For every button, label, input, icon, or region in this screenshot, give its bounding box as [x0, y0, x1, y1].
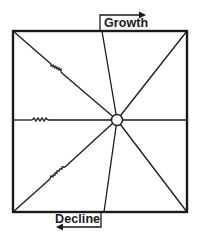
zigzag-icon [32, 118, 48, 121]
zigzag-icon [50, 167, 65, 179]
spoke-bottom-left [13, 123, 113, 212]
spoke-top-left [13, 31, 117, 120]
center-hub [112, 115, 123, 126]
outer-box [13, 31, 187, 212]
spoke-bottom [104, 120, 117, 212]
zigzag-icon [51, 64, 63, 74]
diagram-canvas [0, 0, 202, 241]
spoke-left [13, 118, 112, 121]
growth-label: Growth [104, 17, 148, 30]
spoke-top [102, 31, 117, 120]
spoke-bottom-right [117, 120, 187, 212]
decline-label: Decline [55, 213, 100, 226]
spoke-top-right [117, 31, 187, 120]
